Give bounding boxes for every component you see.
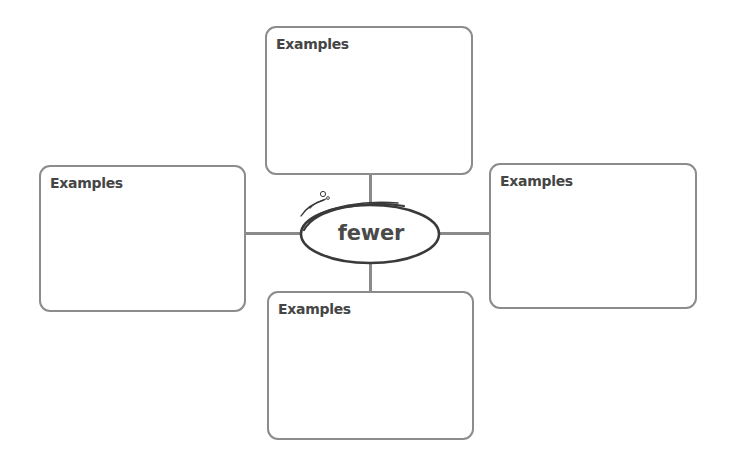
examples-box-top[interactable]: Examples [265, 26, 473, 175]
examples-box-left[interactable]: Examples [39, 165, 246, 312]
examples-label: Examples [500, 173, 573, 189]
examples-box-right[interactable]: Examples [489, 163, 697, 309]
center-concept: fewer [286, 186, 456, 276]
examples-label: Examples [278, 301, 351, 317]
examples-box-bottom[interactable]: Examples [267, 291, 474, 440]
center-word: fewer [286, 221, 456, 245]
examples-label: Examples [50, 175, 123, 191]
examples-label: Examples [276, 36, 349, 52]
